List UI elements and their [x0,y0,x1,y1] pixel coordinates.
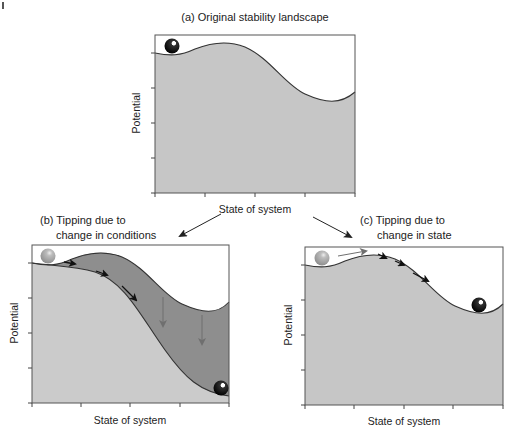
arrow-to-panel-b-icon [180,214,221,236]
panel-b: (b) Tipping due to change in conditions [8,214,229,426]
panel-a: (a) Original stability landscape Potenti… [130,11,355,215]
panel-b-title-line1: (b) Tipping due to [40,214,126,226]
panel-a-x-ticks [155,193,355,197]
panel-a-title: (a) Original stability landscape [181,11,328,23]
stability-landscape-diagram: (a) Original stability landscape Potenti… [0,0,517,439]
panel-b-x-ticks [32,403,229,407]
panel-b-title-line2: change in conditions [56,229,157,241]
panel-c-title-line2: change in state [377,229,452,241]
ball-initial-icon [41,249,56,264]
panel-c-x-ticks [305,405,503,409]
panel-a-y-ticks [151,53,155,193]
panel-a-landscape [155,43,355,193]
panel-c-xlabel: State of system [368,415,441,427]
panel-c-title-line1: (c) Tipping due to [360,214,445,226]
panel-b-xlabel: State of system [94,414,167,426]
push-arrow-icon [338,251,366,256]
panel-b-y-ticks [28,263,32,403]
ball-dark-icon [214,381,229,396]
panel-b-ylabel: Potential [8,303,20,344]
panel-c-ylabel: Potential [282,305,294,346]
panel-c-y-ticks [301,265,305,405]
ball-dark-icon [165,39,180,54]
ball-initial-icon [315,251,330,266]
panel-a-xlabel: State of system [219,203,292,215]
panel-c-landscape [305,255,503,405]
arrow-to-panel-c-icon [313,217,351,237]
panel-c: (c) Tipping due to change in state Poten… [282,214,503,427]
panel-a-ylabel: Potential [130,93,142,134]
ball-dark-icon [472,298,487,313]
